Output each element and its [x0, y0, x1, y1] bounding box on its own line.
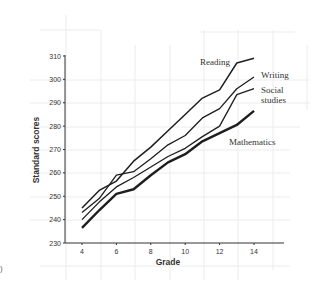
- x-tick-label: 4: [80, 248, 84, 255]
- x-tick-labels: 468101214: [80, 243, 258, 255]
- label-social-studies-line1: Social: [261, 85, 284, 95]
- y-tick-label: 290: [49, 99, 61, 106]
- x-tick-label: 14: [250, 248, 258, 255]
- x-tick-label: 8: [149, 248, 153, 255]
- x-axis-title: Grade: [156, 257, 181, 267]
- background-paper-grid: [30, 15, 310, 280]
- x-tick-label: 10: [181, 248, 189, 255]
- line-reading: [82, 58, 254, 208]
- x-tick-label: 6: [114, 248, 118, 255]
- chart: 230240250260270280290300310 468101214 Gr…: [0, 0, 316, 287]
- y-axis-title: Standard scores: [31, 116, 41, 183]
- label-social-studies-line2: studies: [261, 95, 286, 105]
- y-tick-label: 260: [49, 169, 61, 176]
- label-reading: Reading: [200, 57, 230, 67]
- y-tick-label: 300: [49, 76, 61, 83]
- line-social-studies: [82, 89, 254, 220]
- x-tick-label: 12: [216, 248, 224, 255]
- y-tick-label: 280: [49, 123, 61, 130]
- cropped-edge-mark: ): [0, 264, 3, 273]
- label-writing: Writing: [261, 70, 289, 80]
- y-tick-label: 240: [49, 216, 61, 223]
- y-tick-label: 310: [49, 53, 61, 60]
- axes: [65, 55, 284, 243]
- line-mathematics: [82, 111, 254, 228]
- label-mathematics: Mathematics: [229, 137, 276, 147]
- y-tick-label: 270: [49, 146, 61, 153]
- y-tick-label: 250: [49, 193, 61, 200]
- y-tick-label: 230: [49, 240, 61, 247]
